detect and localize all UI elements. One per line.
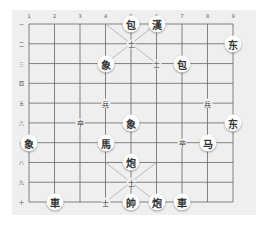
rank-label: 十: [19, 200, 24, 205]
game-piece[interactable]: 卒: [76, 118, 85, 127]
rank-label: 三: [19, 61, 24, 66]
game-piece[interactable]: 卒: [178, 138, 187, 147]
game-piece[interactable]: 炮: [148, 194, 165, 211]
rank-label: 四: [19, 81, 24, 86]
file-label: 3: [78, 14, 81, 19]
game-piece[interactable]: 象: [97, 55, 114, 72]
file-label: 4: [104, 14, 107, 19]
file-label: 8: [206, 14, 209, 19]
game-piece[interactable]: 帥: [123, 194, 140, 211]
game-piece[interactable]: 馬: [97, 134, 114, 151]
game-piece[interactable]: 兵: [101, 99, 110, 108]
game-piece[interactable]: 士: [127, 39, 136, 48]
file-label: 7: [180, 14, 183, 19]
game-piece[interactable]: 士: [127, 178, 136, 187]
game-piece[interactable]: 車: [174, 194, 191, 211]
game-piece[interactable]: 漢: [148, 16, 165, 33]
game-piece[interactable]: 东: [225, 114, 242, 131]
game-piece[interactable]: 东: [225, 35, 242, 52]
rank-label: 六: [19, 120, 24, 125]
rank-label: 九: [19, 180, 24, 185]
game-piece[interactable]: 士: [101, 198, 110, 207]
file-label: 2: [53, 14, 56, 19]
game-piece[interactable]: 兵: [203, 99, 212, 108]
game-piece[interactable]: 马: [199, 134, 216, 151]
game-piece[interactable]: 車: [46, 194, 63, 211]
rank-label: 二: [19, 41, 24, 46]
game-piece[interactable]: 包: [123, 16, 140, 33]
rank-label: 一: [19, 22, 24, 27]
rank-label: 八: [19, 160, 24, 165]
game-piece[interactable]: 象: [21, 134, 38, 151]
board-grid: [0, 0, 256, 226]
game-piece[interactable]: 士: [152, 59, 161, 68]
file-label: 9: [231, 14, 234, 19]
game-piece[interactable]: 包: [174, 55, 191, 72]
file-label: 1: [27, 14, 30, 19]
game-piece[interactable]: 炮: [123, 154, 140, 171]
game-piece[interactable]: 象: [123, 114, 140, 131]
rank-label: 五: [19, 101, 24, 106]
